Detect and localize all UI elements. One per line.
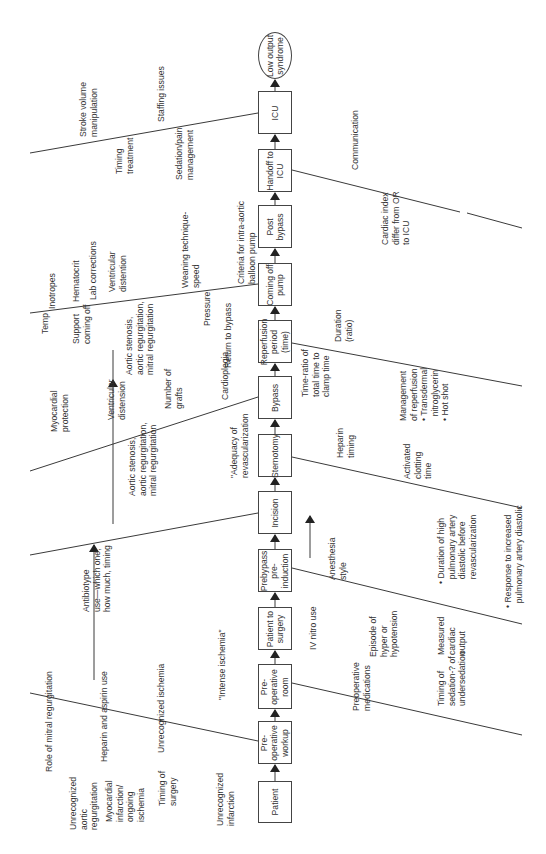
process-step-bypass: Bypass (258, 376, 292, 419)
process-step-sternotomy: Sternotomy (258, 434, 292, 477)
cause-bone-line (30, 513, 258, 555)
cause-label: Lab corrections (88, 241, 99, 300)
cause-label: Stroke volume manipulation (78, 82, 99, 137)
cause-label: Heparin and aspirin use (99, 671, 110, 762)
process-step-label: Bypass (270, 383, 280, 411)
process-step-label: Pre- operative room (259, 669, 290, 704)
cause-bone-line (30, 693, 258, 741)
process-step-icu: ICU (258, 91, 292, 134)
cause-label: Time-ratio of total time to clamp time (300, 349, 332, 397)
process-step-coming-off-pump: Coming off pump (258, 263, 292, 306)
cause-label: "Intense ischemia" (217, 629, 228, 700)
cause-label: IV nitro use (308, 607, 319, 650)
cause-label: Communication (350, 110, 361, 170)
cause-label: Hematocrit (71, 260, 82, 302)
cause-label: Support coming off (71, 305, 92, 345)
cause-bone-line (292, 170, 460, 212)
process-step-label: Incision (270, 498, 280, 527)
cause-label: Unrecognized infarction (215, 773, 236, 826)
cause-label: Preoperative medications (351, 662, 372, 711)
cause-label: Timing of sedation-? of undersedation (436, 652, 468, 706)
cause-label: "Adequacy of revascularization (229, 414, 250, 478)
cause-label: Aortic stenosis, aortic regurgitation, m… (124, 301, 156, 375)
cause-label: Measured cardiac output (436, 617, 468, 655)
cause-label: • Duration of high pulmonary artery dias… (436, 515, 478, 584)
cause-label: Timing of surgery (157, 771, 178, 806)
cause-label: Criteria for intra-aortic balloon pump (236, 201, 257, 284)
cause-label: Sedation/pain management (174, 127, 195, 180)
process-step-label: Pre- operative workup (259, 725, 290, 760)
cause-label: Management of reperfusion • Transdermal … (398, 368, 451, 421)
cause-label: Cardiac index differ from OR to ICU (380, 191, 412, 245)
process-step-prebypass: Prebypass pre- induction (258, 549, 292, 592)
process-step-preop-room: Pre- operative room (258, 664, 292, 709)
process-step-preop-workup: Pre- operative workup (258, 721, 292, 764)
cause-label: Heparin timing (335, 428, 356, 458)
process-step-reperfusion: Reperfusion period (time) (258, 320, 292, 363)
cause-label: Antibiotype use—which one, how much, tim… (81, 545, 113, 612)
process-step-label: Low output syndrome (265, 34, 286, 76)
cause-label: Anesthesia style (327, 537, 348, 580)
cause-label: Unrecognized ischemia (156, 664, 167, 753)
cause-label: Pressure (202, 292, 213, 326)
cause-label: Timing treatment (114, 138, 135, 174)
cause-label: Myocardial infarction/ ongoing ischemia (104, 780, 146, 822)
cause-label: Duration (ratio) (333, 310, 354, 342)
cause-label: Inotropes (47, 273, 58, 309)
process-step-label: Coming off pump (265, 264, 286, 305)
process-step-handoff-icu: Handoff to ICU (258, 149, 292, 192)
process-step-label: ICU (270, 105, 280, 120)
cause-label: Temp (40, 313, 51, 334)
cause-label: Activated clotting time (402, 444, 434, 479)
cause-bone-line (467, 213, 522, 228)
fishbone-diagram: PatientPre- operative workupPre- operati… (0, 0, 546, 854)
process-step-low-output: Low output syndrome (258, 32, 292, 79)
cause-label: Staffing issues (156, 66, 167, 122)
process-step-label: Prebypass pre- induction (259, 550, 290, 591)
process-step-patient-to-surgery: Patient to surgery (258, 607, 292, 650)
process-step-label: Handoff to ICU (265, 151, 286, 191)
cause-label: Aortic stenosis, aortic regurgitation, m… (127, 422, 159, 496)
process-step-post-bypass: Post bypass (258, 205, 292, 248)
cause-label: Episode of hyper or hypotension (368, 611, 400, 657)
process-step-label: Reperfusion period (time) (259, 318, 290, 364)
process-step-incision: Incision (258, 491, 292, 534)
cause-bone-line (292, 683, 522, 735)
cause-label: • Response to increased pulmonary artery… (503, 505, 524, 608)
process-step-label: Post bypass (265, 213, 286, 240)
cause-label: Return to bypass (223, 303, 234, 368)
process-step-label: Patient to surgery (265, 610, 286, 646)
cause-bone-line (30, 113, 258, 153)
cause-label: Ventricular distension (106, 379, 127, 420)
cause-label: Unrecognized aortic regurgitation (68, 777, 100, 830)
cause-label: Myocardial protection (49, 390, 70, 432)
cause-label: Role of mitral regurgitation (44, 671, 55, 772)
cause-label: Ventricular distention (107, 251, 128, 292)
process-step-label: Sternotomy (270, 434, 280, 478)
process-step-patient: Patient (258, 781, 292, 823)
cause-label: Number of grafts (163, 369, 184, 409)
cause-label: Weaning technique- speed (180, 212, 201, 288)
process-step-label: Patient (270, 789, 280, 816)
